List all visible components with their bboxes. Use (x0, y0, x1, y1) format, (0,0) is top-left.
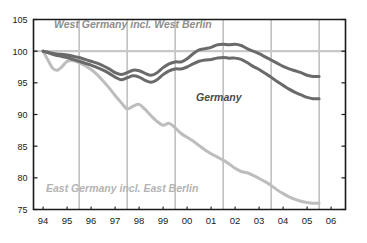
y-axis-label-100: 100 (12, 47, 27, 57)
x-axis-label-01: 01 (206, 215, 217, 226)
y-axis-ticks (34, 20, 346, 210)
x-axis-label-94: 94 (38, 215, 49, 226)
y-axis-label-90: 90 (17, 110, 27, 120)
y-axis-label-105: 105 (12, 15, 27, 25)
y-axis-label-80: 80 (17, 173, 27, 183)
x-axis-label-99: 99 (158, 215, 169, 226)
annotation-west-germany: West Germany incl. West Berlin (54, 18, 212, 30)
y-axis-labels: 1051009590858075 (12, 15, 27, 215)
series-line-2 (43, 51, 319, 203)
gridlines (79, 20, 319, 210)
series-line-0 (43, 44, 319, 76)
chart-container: 1051009590858075 94959697989900010203040… (0, 0, 367, 243)
axis-frame (34, 20, 346, 210)
annotation-east-germany: East Germany incl. East Berlin (46, 182, 198, 194)
line-chart: 1051009590858075 94959697989900010203040… (0, 0, 367, 243)
x-axis-label-03: 03 (254, 215, 265, 226)
x-axis-label-95: 95 (62, 215, 73, 226)
y-axis-label-75: 75 (17, 205, 27, 215)
y-axis-label-95: 95 (17, 78, 27, 88)
x-axis-label-04: 04 (278, 215, 289, 226)
annotation-germany: Germany (196, 91, 243, 103)
x-axis-label-96: 96 (86, 215, 97, 226)
x-axis-label-98: 98 (134, 215, 145, 226)
x-axis-label-00: 00 (182, 215, 193, 226)
x-axis-labels: 94959697989900010203040506 (38, 215, 337, 226)
x-axis-label-05: 05 (302, 215, 313, 226)
x-axis-label-06: 06 (326, 215, 337, 226)
plot-frame (34, 20, 346, 210)
data-series-group (43, 44, 319, 203)
x-axis-label-97: 97 (110, 215, 121, 226)
x-axis-label-02: 02 (230, 215, 241, 226)
y-axis-label-85: 85 (17, 142, 27, 152)
